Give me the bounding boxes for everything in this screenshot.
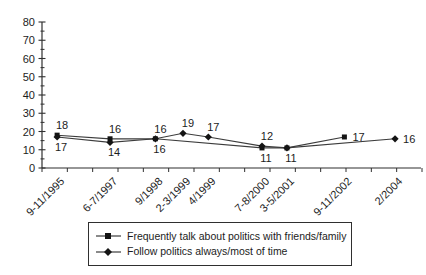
legend-label-follow-politics: Follow politics always/most of time xyxy=(127,245,287,258)
data-point-diamond xyxy=(152,135,159,142)
data-point-square xyxy=(342,134,347,139)
data-label: 19 xyxy=(182,117,194,129)
legend: Frequently talk about politics with frie… xyxy=(88,222,352,266)
data-label: 16 xyxy=(153,143,165,155)
data-label: 17 xyxy=(207,121,219,133)
data-point-diamond xyxy=(205,133,212,140)
political-involvement-line-chart-figure: 010203040506070809-11/19956-7/19979/1998… xyxy=(0,0,426,275)
data-label: 12 xyxy=(261,130,273,142)
data-label: 16 xyxy=(109,123,121,135)
y-axis-tick-label: 30 xyxy=(23,107,35,119)
y-axis-tick-label: 50 xyxy=(23,71,35,83)
y-axis-tick-label: 20 xyxy=(23,126,35,138)
x-axis-label: 6-7/1997 xyxy=(80,175,119,214)
legend-entry-follow-politics: Follow politics always/most of time xyxy=(95,245,345,258)
x-axis-label: 4/1999 xyxy=(185,175,217,207)
y-axis-tick-label: 80 xyxy=(23,16,35,28)
x-axis-label: 9-11/1995 xyxy=(24,175,67,218)
data-label: 16 xyxy=(154,123,166,135)
data-point-diamond xyxy=(258,143,265,150)
x-axis-label: 2/2004 xyxy=(372,175,404,207)
data-point-diamond xyxy=(179,130,186,137)
data-point-diamond xyxy=(106,139,113,146)
diamond-series-marker-icon xyxy=(95,247,122,257)
data-point-diamond xyxy=(391,135,398,142)
legend-label-talk-politics: Frequently talk about politics with frie… xyxy=(127,230,346,243)
data-label: 18 xyxy=(56,119,68,131)
y-axis-tick-label: 10 xyxy=(23,144,35,156)
data-point-diamond xyxy=(283,144,290,151)
data-label: 17 xyxy=(55,141,67,153)
y-axis-tick-label: 70 xyxy=(23,34,35,46)
y-axis-tick-label: 40 xyxy=(23,89,35,101)
data-label: 11 xyxy=(285,152,296,164)
data-label: 14 xyxy=(108,146,120,158)
y-axis-tick-label: 0 xyxy=(29,162,35,174)
legend-entry-talk-politics: Frequently talk about politics with frie… xyxy=(95,230,345,243)
data-label: 11 xyxy=(260,152,271,164)
square-series-marker-icon xyxy=(95,231,122,241)
x-axis-label: 9-11/2002 xyxy=(311,175,354,218)
y-axis-tick-label: 60 xyxy=(23,53,35,65)
data-label: 16 xyxy=(403,133,415,145)
data-point-diamond xyxy=(54,133,61,140)
